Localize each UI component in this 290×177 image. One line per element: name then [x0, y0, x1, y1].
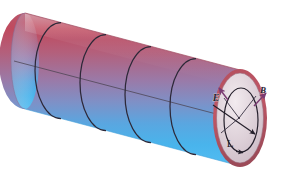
- label-L: L: [227, 137, 234, 149]
- label-E: E: [212, 92, 220, 103]
- label-B: B: [259, 85, 266, 95]
- cylinder-diagram-svg: E B L: [0, 0, 290, 177]
- figure-canvas: E B L: [0, 0, 290, 177]
